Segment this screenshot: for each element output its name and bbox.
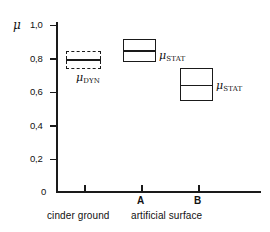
y-tick-label-0-4: 0,4: [30, 120, 43, 131]
y-tick-label-0-8: 0,8: [30, 53, 43, 64]
data-box-mu-stat-b-mean-line: [180, 85, 214, 87]
x-group-label-cinder-ground: cinder ground: [47, 210, 109, 221]
y-tick-mark-0-4: [50, 125, 57, 127]
y-axis-title: μ: [13, 18, 21, 32]
y-tick-label-0-2: 0,2: [30, 153, 43, 164]
x-tick-label-a: A: [137, 195, 144, 206]
data-box-mu-dyn: [66, 51, 101, 69]
x-tick-mark-cinder: [84, 185, 86, 192]
x-group-label-artificial-surface: artificial surface: [131, 210, 202, 221]
y-tick-mark-0-6: [50, 92, 57, 94]
series-label-mu-dyn: μDYN: [76, 71, 100, 85]
x-tick-mark-a: [141, 185, 143, 192]
mu-subscript-stat-a: STAT: [166, 55, 185, 63]
mu-subscript-stat-b: STAT: [223, 85, 242, 93]
mu-subscript-dyn: DYN: [83, 77, 100, 85]
y-tick-label-0-6: 0,6: [30, 86, 43, 97]
y-tick-label-1-0: 1,0: [30, 19, 43, 30]
x-tick-mark-b: [198, 185, 200, 192]
y-tick-mark-0-2: [50, 159, 57, 161]
x-tick-label-b: B: [194, 195, 201, 206]
data-box-mu-stat-a: [123, 39, 156, 62]
friction-coefficient-chart: μ 1,0 0,8 0,6 0,4 0,2 0 A B cinder groun…: [0, 0, 270, 232]
y-tick-mark-0-8: [50, 58, 57, 60]
data-box-mu-stat-a-mean-line: [123, 50, 157, 52]
data-box-mu-dyn-mean-line: [66, 59, 102, 61]
data-box-mu-stat-b: [180, 68, 213, 101]
series-label-mu-stat-b: μSTAT: [216, 79, 242, 93]
y-tick-mark-1-0: [50, 25, 57, 27]
y-axis-line: [56, 22, 58, 193]
x-axis-line: [56, 191, 261, 193]
series-label-mu-stat-a: μSTAT: [159, 49, 185, 63]
y-tick-label-0: 0: [41, 186, 46, 197]
